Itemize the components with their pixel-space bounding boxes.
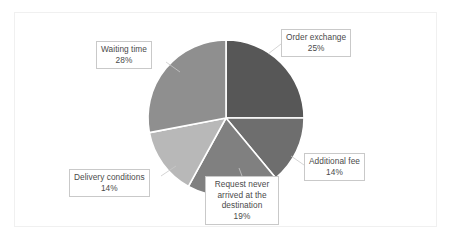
pie-label-additional-fee-text: Additional fee xyxy=(309,156,360,167)
pie-label-delivery-conditions: Delivery conditions 14% xyxy=(69,169,150,197)
pie-label-additional-fee: Additional fee 14% xyxy=(304,153,365,181)
pie-label-request-never-text: Request never arrived at the destination xyxy=(208,179,276,211)
leader-line-order-exchange xyxy=(268,44,281,54)
pie-label-request-never: Request never arrived at the destination… xyxy=(205,176,279,225)
pie-label-delivery-conditions-text: Delivery conditions xyxy=(74,172,145,183)
pie-label-request-never-value: 19% xyxy=(208,211,276,222)
pie-label-waiting-time: Waiting time 28% xyxy=(96,41,152,69)
leader-line-additional-fee xyxy=(291,156,304,165)
pie-label-order-exchange-value: 25% xyxy=(286,43,346,54)
pie-label-order-exchange-text: Order exchange xyxy=(286,32,346,43)
pie-label-additional-fee-value: 14% xyxy=(309,167,360,178)
pie-slice xyxy=(148,40,226,133)
pie-label-delivery-conditions-value: 14% xyxy=(74,183,145,194)
pie-label-waiting-time-value: 28% xyxy=(101,55,147,66)
pie-slice-group xyxy=(148,40,304,196)
pie-chart-figure: Order exchange 25% Waiting time 28% Addi… xyxy=(0,0,454,244)
pie-label-waiting-time-text: Waiting time xyxy=(101,44,147,55)
pie-label-order-exchange: Order exchange 25% xyxy=(281,29,351,57)
